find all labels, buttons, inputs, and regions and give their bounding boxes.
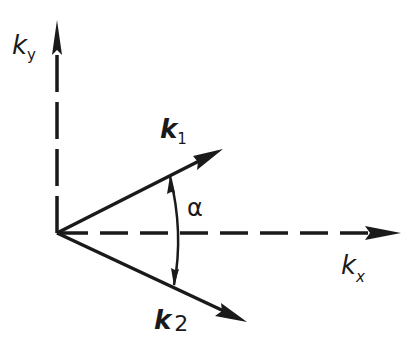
kx-axis — [60, 226, 401, 240]
k2-vector — [57, 233, 247, 322]
k2-label: k2 — [154, 305, 188, 335]
k1-arrowhead-icon — [193, 149, 223, 170]
kx-arrowhead-icon — [365, 226, 401, 240]
angle-alpha-arc — [167, 176, 179, 286]
ky-axis — [52, 20, 62, 233]
k1-label: k1 — [160, 114, 187, 144]
ky-arrowhead-icon — [52, 20, 62, 55]
kx-label: kx — [341, 250, 365, 280]
alpha-label: α — [187, 194, 203, 222]
ky-label: ky — [12, 30, 36, 60]
wave-vector-diagram: ky kx k1 k2 α — [0, 0, 420, 351]
diagram-drawing — [0, 0, 420, 351]
k2-arrowhead-icon — [215, 303, 247, 322]
